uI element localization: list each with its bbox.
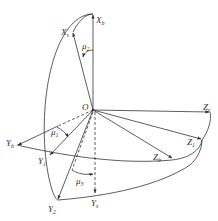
label-mu1: μ1 — [50, 127, 59, 138]
frame-rotation-diagram: Xb Xs μ2 O Zs Yb μ1 Y1 Z1 Zb μ3 Y2 Ys — [0, 0, 218, 221]
label-zb: Zb — [153, 152, 161, 163]
label-yb: Yb — [6, 138, 14, 149]
arc-y2-z1 — [58, 140, 202, 200]
label-ys: Ys — [91, 198, 99, 209]
label-xb: Xb — [95, 15, 105, 26]
label-z1: Z1 — [187, 137, 195, 148]
label-origin: O — [82, 102, 89, 112]
axis-zb — [93, 110, 172, 158]
label-mu3: μ3 — [75, 176, 84, 187]
angle-mu3-arc — [72, 170, 93, 174]
angle-mu1-arc — [57, 127, 68, 137]
axis-zs — [93, 110, 209, 112]
axis-z1 — [93, 110, 201, 139]
arc-zs-z1 — [202, 112, 211, 140]
label-y2: Y2 — [48, 204, 56, 215]
label-zs: Zs — [203, 102, 211, 113]
label-y1: Y1 — [38, 156, 46, 167]
arc-xb-xs — [73, 14, 93, 32]
origin-point — [92, 109, 94, 111]
label-mu2: μ2 — [81, 41, 90, 52]
